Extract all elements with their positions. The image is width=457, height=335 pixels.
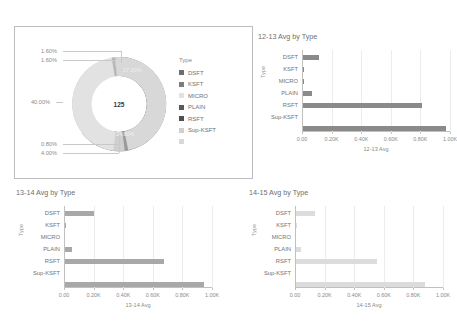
bar-dsft[interactable] bbox=[65, 211, 94, 216]
cat-label-dsft: DSFT bbox=[264, 54, 298, 60]
bar-blank[interactable] bbox=[303, 126, 446, 131]
tick-3 bbox=[384, 288, 385, 290]
legend-swatch-ksft bbox=[179, 82, 184, 87]
gridline-1 bbox=[94, 206, 95, 288]
gridline-4 bbox=[182, 206, 183, 288]
callout-rsft-pct: 40.00% bbox=[31, 99, 50, 105]
legend-label-rsft: RSFT bbox=[188, 116, 204, 122]
tick-1 bbox=[325, 288, 326, 290]
tick-0 bbox=[64, 288, 65, 290]
legend-item-sup-ksft[interactable]: Sup-KSFT bbox=[179, 125, 216, 137]
callout-extra-pct: 1.60% bbox=[41, 57, 57, 63]
cat-label-micro: MICRO bbox=[264, 78, 298, 84]
x-tick-label-2: 0.40K bbox=[347, 292, 361, 298]
bar-rsft[interactable] bbox=[296, 259, 377, 264]
legend-label-sup-ksft: Sup-KSFT bbox=[188, 127, 216, 133]
legend-item-plain[interactable]: PLAIN bbox=[179, 102, 216, 114]
x-tick-label-2: 0.40K bbox=[354, 136, 368, 142]
x-axis-line-13-14 bbox=[64, 287, 212, 288]
legend-item-blank[interactable] bbox=[179, 136, 216, 148]
donut-legend: Type DSFT KSFT MICRO PLAIN RSFT bbox=[179, 57, 216, 148]
cat-label-dsft: DSFT bbox=[22, 210, 60, 216]
gridline-2 bbox=[354, 206, 355, 288]
x-tick-label-5: 1.00K bbox=[436, 292, 450, 298]
bar-ksft[interactable] bbox=[296, 223, 297, 228]
leader-line-top-2 bbox=[63, 60, 115, 61]
tick-1 bbox=[332, 132, 333, 134]
chart-12-13-avg-by-type: 12-13 Avg by Type Type DSFT KSFT MICRO P… bbox=[258, 32, 454, 162]
tick-4 bbox=[413, 288, 414, 290]
bar-plain[interactable] bbox=[65, 247, 72, 252]
legend-swatch-dsft bbox=[179, 70, 184, 75]
bar-dsft[interactable] bbox=[296, 211, 315, 216]
tick-5 bbox=[450, 132, 451, 134]
cat-label-rsft: RSFT bbox=[253, 258, 291, 264]
x-axis-title-14-15: 14-15 Avg bbox=[356, 302, 381, 308]
bar-ksft[interactable] bbox=[65, 223, 66, 228]
chart-title-14-15: 14-15 Avg by Type bbox=[249, 188, 308, 197]
gridline-2 bbox=[361, 50, 362, 132]
legend-title: Type bbox=[179, 57, 216, 63]
tick-2 bbox=[123, 288, 124, 290]
leader-line-bottom-v1 bbox=[119, 135, 120, 144]
x-axis-title-12-13: 12-13 Avg bbox=[363, 146, 388, 152]
bar-ksft[interactable] bbox=[303, 67, 304, 72]
bar-plain[interactable] bbox=[303, 91, 312, 96]
legend-swatch-plain bbox=[179, 105, 184, 110]
leader-line-top-v1 bbox=[121, 51, 122, 63]
x-tick-label-3: 0.60K bbox=[146, 292, 160, 298]
bar-rsft[interactable] bbox=[65, 259, 164, 264]
bar-blank[interactable] bbox=[65, 282, 204, 287]
legend-item-dsft[interactable]: DSFT bbox=[179, 67, 216, 79]
cat-label-ksft: KSFT bbox=[264, 66, 298, 72]
cat-label-sup-ksft: Sup-KSFT bbox=[253, 270, 291, 276]
cat-label-plain: PLAIN bbox=[22, 246, 60, 252]
x-tick-label-1: 0.20K bbox=[318, 292, 332, 298]
legend-item-ksft[interactable]: KSFT bbox=[179, 79, 216, 91]
chart-14-15-avg-by-type: 14-15 Avg by Type Type DSFT KSFT MICRO P… bbox=[249, 188, 452, 318]
dashboard-root: 125 27.20% 24.80% 1.60% 1.60% 40.00% 0.8… bbox=[0, 0, 457, 335]
legend-item-micro[interactable]: MICRO bbox=[179, 90, 216, 102]
bar-dsft[interactable] bbox=[303, 55, 319, 60]
gridline-1 bbox=[332, 50, 333, 132]
x-tick-label-4: 0.80K bbox=[413, 136, 427, 142]
chart-13-14-avg-by-type: 13-14 Avg by Type Type DSFT KSFT MICRO P… bbox=[16, 188, 216, 318]
cat-label-ksft: KSFT bbox=[253, 222, 291, 228]
gridline-5 bbox=[450, 50, 451, 132]
leader-line-left bbox=[56, 102, 63, 103]
x-tick-label-3: 0.60K bbox=[384, 136, 398, 142]
x-axis-title-13-14: 13-14 Avg bbox=[125, 302, 150, 308]
cat-label-micro: MICRO bbox=[253, 234, 291, 240]
bar-blank[interactable] bbox=[296, 282, 425, 287]
legend-label-ksft: KSFT bbox=[188, 81, 203, 87]
x-tick-label-1: 0.20K bbox=[325, 136, 339, 142]
cat-label-micro: MICRO bbox=[22, 234, 60, 240]
cat-label-ksft: KSFT bbox=[22, 222, 60, 228]
legend-swatch-micro bbox=[179, 93, 184, 98]
gridline-2 bbox=[123, 206, 124, 288]
bar-rsft[interactable] bbox=[303, 103, 422, 108]
cat-label-plain: PLAIN bbox=[264, 90, 298, 96]
gridline-1 bbox=[325, 206, 326, 288]
tick-0 bbox=[295, 288, 296, 290]
bar-micro[interactable] bbox=[303, 79, 304, 84]
x-axis-line-14-15 bbox=[295, 287, 443, 288]
bar-plain[interactable] bbox=[296, 247, 301, 252]
leader-line-bottom-v2 bbox=[119, 144, 120, 153]
legend-swatch-blank bbox=[179, 139, 184, 144]
gridline-5 bbox=[443, 206, 444, 288]
legend-item-rsft[interactable]: RSFT bbox=[179, 113, 216, 125]
leader-line-top-v2 bbox=[115, 60, 116, 66]
x-tick-label-1: 0.20K bbox=[87, 292, 101, 298]
gridline-3 bbox=[384, 206, 385, 288]
x-tick-label-0: 0.00 bbox=[290, 292, 301, 298]
cat-label-rsft: RSFT bbox=[264, 102, 298, 108]
chart-title-13-14: 13-14 Avg by Type bbox=[16, 188, 75, 197]
gridline-4 bbox=[413, 206, 414, 288]
cat-label-dsft: DSFT bbox=[253, 210, 291, 216]
x-tick-label-0: 0.00 bbox=[59, 292, 70, 298]
legend-swatch-rsft bbox=[179, 116, 184, 121]
plot-area-12-13 bbox=[302, 50, 450, 132]
cat-label-plain: PLAIN bbox=[253, 246, 291, 252]
leader-line-top-1 bbox=[63, 51, 121, 52]
